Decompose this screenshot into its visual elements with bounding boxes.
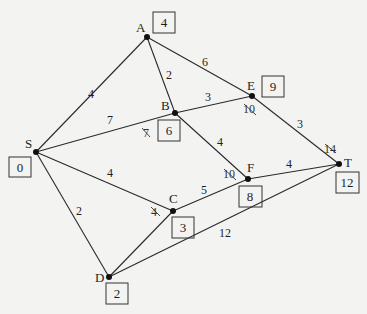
weight-E-T: 3 [297,117,303,131]
node-F [245,176,251,182]
box-value-E: 9 [270,79,277,94]
node-label-S: S [25,136,32,151]
weight-D-T: 12 [219,226,231,240]
weight-S-D: 2 [76,204,82,218]
weight-B-F: 4 [217,135,223,149]
edge-B-F [175,113,248,179]
node-E [249,93,255,99]
edge-B-E [175,96,252,113]
node-S [33,149,39,155]
weight-A-B: 2 [166,68,172,82]
node-label-C: C [169,191,178,206]
node-B [172,110,178,116]
edge-S-C [36,152,173,211]
box-value-S: 0 [17,160,24,175]
weight-F-T: 4 [286,157,292,171]
node-T [336,161,342,167]
edge-C-D [109,211,173,277]
edges [36,37,339,277]
edge-A-E [147,37,252,96]
edge-S-B [36,113,175,152]
node-label-D: D [95,270,104,285]
weight-B-E: 3 [205,90,211,104]
edge-C-F [173,179,248,211]
edge-S-D [36,152,109,277]
box-value-T: 12 [341,175,354,190]
box-value-A: 4 [161,15,168,30]
weight-C-F: 5 [201,183,207,197]
node-label-T: T [344,155,352,170]
node-C [170,208,176,214]
weight-S-B: 7 [107,113,113,127]
weight-A-E: 6 [202,55,208,69]
node-label-E: E [247,78,255,93]
box-value-D: 2 [114,286,121,301]
node-label-A: A [136,20,146,35]
node-D [106,274,112,280]
box-value-F: 8 [247,189,254,204]
edge-F-T [248,164,339,179]
graph-diagram: 4 7 4 2 2 6 3 4 3 5 4 12 7 10 14 10 4 [0,0,367,314]
node-label-F: F [247,160,254,175]
weight-S-C: 4 [107,166,113,180]
node-label-B: B [161,98,170,113]
nodes [33,34,342,280]
box-value-B: 6 [166,123,173,138]
box-value-C: 3 [180,220,187,235]
final-distance-boxes: 0 4 6 9 3 8 12 2 [9,12,359,304]
weight-S-A: 4 [88,87,94,101]
